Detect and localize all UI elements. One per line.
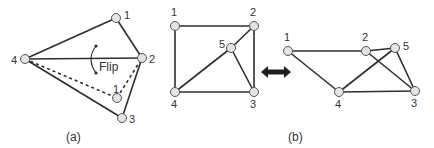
panel-a-dashed-edge-1b-2 bbox=[117, 58, 142, 98]
panel-b-right-node-label-4: 4 bbox=[335, 98, 341, 110]
panel-a-edge-4-2 bbox=[25, 58, 142, 59]
panel-a-node-1 bbox=[112, 14, 121, 23]
panel-b-right-node-label-5: 5 bbox=[403, 40, 409, 52]
nodes-layer: 123411234512345 bbox=[11, 6, 420, 125]
panel-b-left-node-label-5: 5 bbox=[219, 38, 225, 50]
panel-a-node-label-1: 1 bbox=[124, 9, 130, 21]
panel-a-node-label-2: 2 bbox=[149, 53, 155, 65]
panel-b-right-edge-5-3 bbox=[395, 48, 415, 91]
panel-a-node-label-3: 3 bbox=[129, 113, 135, 125]
caption-b: (b) bbox=[288, 130, 303, 144]
panel-b-right-node-label-2: 2 bbox=[362, 31, 368, 43]
panel-a-node-3 bbox=[118, 114, 127, 123]
panel-b-left-edge-5-4 bbox=[175, 48, 231, 92]
panel-b-right-edge-2-3 bbox=[366, 51, 415, 91]
panel-b-left-node-label-2: 2 bbox=[250, 6, 256, 18]
panel-b-left-node-1 bbox=[171, 22, 180, 31]
panel-b-right-node-1 bbox=[284, 47, 293, 56]
panel-b-right-node-4 bbox=[335, 88, 344, 97]
panel-a-node-label-4: 4 bbox=[11, 54, 17, 66]
panel-a-node-2 bbox=[138, 54, 147, 63]
panel-b-left-node-label-4: 4 bbox=[171, 98, 177, 110]
panel-b-right-node-3 bbox=[411, 87, 420, 96]
panel-b-left-node-5 bbox=[227, 44, 236, 53]
panel-b-right-node-label-3: 3 bbox=[411, 97, 417, 109]
panel-b-left-node-label-1: 1 bbox=[171, 6, 177, 18]
panel-a-edge-2-3 bbox=[122, 58, 142, 118]
flip-label: Flip bbox=[99, 60, 119, 74]
flip-arrow-icon bbox=[91, 44, 98, 74]
panel-b-right-node-2 bbox=[362, 47, 371, 56]
panel-b-right-edge-1-4 bbox=[288, 51, 339, 92]
panel-a-node-label-1b: 1 bbox=[113, 83, 119, 95]
caption-a: (a) bbox=[66, 130, 81, 144]
panel-b-left-node-4 bbox=[171, 88, 180, 97]
panel-b-right-node-5 bbox=[391, 44, 400, 53]
panel-b-right-edge-4-3 bbox=[339, 91, 415, 92]
edges-layer bbox=[25, 18, 415, 118]
panel-a-edge-4-1 bbox=[25, 18, 116, 59]
panel-a-edge-1-2 bbox=[116, 18, 142, 58]
mesh-flip-diagram: Flip 123411234512345 (a) (b) bbox=[0, 0, 434, 148]
double-arrow-icon bbox=[261, 66, 291, 78]
panel-b-left-node-3 bbox=[250, 88, 259, 97]
panel-b-right-node-label-1: 1 bbox=[284, 31, 290, 43]
panel-b-left-edge-5-3 bbox=[231, 48, 254, 92]
panel-b-left-node-label-3: 3 bbox=[250, 98, 256, 110]
panel-a-node-4 bbox=[21, 55, 30, 64]
panel-b-left-node-2 bbox=[250, 22, 259, 31]
